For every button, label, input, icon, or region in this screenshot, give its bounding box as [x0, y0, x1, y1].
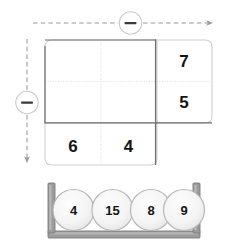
tray-base-highlight	[50, 232, 198, 234]
minus-circle-icon-vertical[interactable]	[16, 91, 38, 113]
minus-glyph-vertical	[21, 101, 33, 103]
grid-cell-right-col-row1-value: 5	[156, 94, 212, 111]
tray-base-bar	[48, 231, 200, 238]
minus-glyph-horizontal	[125, 22, 137, 24]
grid-cell-bottom-row-col1-value: 4	[101, 138, 156, 155]
number-tile-1-label: 15	[93, 204, 133, 217]
number-tile-0-label: 4	[54, 204, 94, 217]
puzzle-canvas: 7 5 6 4 4 15 8 9	[0, 0, 227, 251]
grid-cell-bottom-row-col0-value: 6	[45, 138, 101, 155]
minus-circle-icon-horizontal[interactable]	[119, 12, 141, 34]
number-tile-3-label: 9	[164, 204, 204, 217]
grid-cell-right-col-row0-value: 7	[156, 53, 212, 70]
tray-left-post-highlight	[49, 185, 51, 230]
